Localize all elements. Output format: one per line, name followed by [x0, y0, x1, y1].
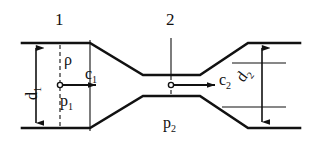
- velocity-c1-label: c1: [85, 66, 97, 85]
- venturi-diagram-figure: 1 2 d1 d2 ρ c1 p1 c2 p2: [0, 0, 317, 162]
- section-1-number: 1: [55, 11, 64, 28]
- velocity-vector-c2: [168, 82, 215, 87]
- pressure-p2-label: p2: [163, 115, 176, 134]
- venturi-outline-svg: [0, 0, 317, 162]
- pressure-p2-base: p: [163, 114, 171, 131]
- velocity-c2-label: c2: [219, 72, 231, 91]
- density-rho-label: ρ: [64, 52, 72, 68]
- diameter-1-base: d: [23, 92, 40, 100]
- velocity-c1-subscript: 1: [92, 74, 97, 85]
- pressure-p1-base: p: [60, 92, 68, 109]
- diameter-1-subscript: 1: [32, 87, 43, 92]
- diameter-1-label: d1: [24, 87, 43, 100]
- section-2-number: 2: [166, 11, 175, 28]
- pressure-p2-subscript: 2: [171, 123, 176, 134]
- velocity-c2-subscript: 2: [226, 80, 231, 91]
- pressure-p1-label: p1: [60, 93, 73, 112]
- pressure-p1-subscript: 1: [68, 101, 73, 112]
- c2-origin-point: [168, 82, 173, 87]
- c1-origin-point: [57, 82, 62, 87]
